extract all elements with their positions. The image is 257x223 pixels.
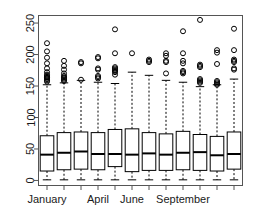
- box-september: [176, 29, 190, 180]
- boxes: [40, 17, 241, 179]
- outlier-point: [215, 61, 220, 66]
- outlier-point: [79, 77, 84, 82]
- box-rect: [108, 129, 122, 166]
- outlier-point: [62, 58, 67, 63]
- outlier-point: [232, 26, 237, 31]
- outlier-point: [181, 29, 186, 34]
- box-rect: [176, 131, 190, 169]
- box-rect: [125, 129, 139, 172]
- outlier-point: [45, 49, 50, 54]
- y-tick-label: 200: [25, 45, 37, 63]
- box-rect: [142, 133, 156, 171]
- x-tick-label: January: [27, 193, 67, 205]
- y-tick-label: 150: [25, 77, 37, 95]
- box-rect: [57, 133, 71, 170]
- y-tick-label: 250: [25, 14, 37, 32]
- outlier-point: [113, 27, 118, 32]
- box-rect: [227, 132, 241, 169]
- box-august: [159, 51, 173, 180]
- outlier-point: [198, 17, 203, 22]
- box-rect: [40, 136, 54, 171]
- x-tick-label: April: [87, 193, 109, 205]
- boxplot-figure: 050100150200250JanuaryAprilJuneSeptember: [0, 0, 257, 223]
- box-december: [227, 26, 241, 180]
- y-axis: 050100150200250: [25, 14, 39, 184]
- box-rect: [210, 136, 224, 171]
- outlier-point: [45, 55, 50, 60]
- x-tick-label: June: [120, 193, 144, 205]
- box-july: [142, 57, 156, 180]
- y-tick-label: 0: [25, 177, 37, 183]
- y-tick-label: 100: [25, 108, 37, 126]
- x-tick-label: September: [156, 193, 210, 205]
- box-october: [193, 17, 207, 179]
- box-april: [91, 55, 105, 180]
- box-january: [40, 41, 54, 180]
- x-axis: JanuaryAprilJuneSeptember: [27, 186, 234, 205]
- box-march: [74, 60, 88, 180]
- outlier-point: [45, 41, 50, 46]
- outlier-point: [181, 51, 186, 56]
- outlier-point: [113, 51, 118, 56]
- outlier-point: [164, 71, 169, 76]
- box-rect: [159, 134, 173, 171]
- outlier-point: [232, 48, 237, 53]
- box-november: [210, 48, 224, 180]
- outlier-point: [45, 61, 50, 66]
- outlier-point: [130, 51, 135, 56]
- box-may: [108, 27, 122, 180]
- box-rect: [91, 133, 105, 170]
- y-tick-label: 50: [25, 143, 37, 155]
- box-february: [57, 58, 71, 180]
- box-june: [125, 51, 139, 180]
- boxplot-svg: 050100150200250JanuaryAprilJuneSeptember: [0, 0, 257, 223]
